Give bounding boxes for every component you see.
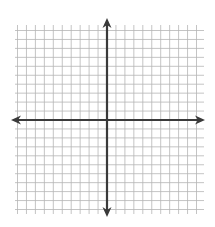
coordinate-plane	[0, 0, 215, 227]
axes	[11, 18, 205, 217]
